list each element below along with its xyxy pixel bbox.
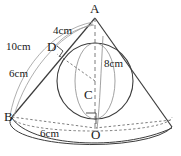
point-label-B: B	[4, 110, 13, 123]
dimension-label-AB: 10cm	[6, 41, 30, 52]
slant-edge-right	[95, 18, 172, 127]
point-label-O: O	[91, 128, 100, 141]
geometry-figure: A B C D O 4cm 10cm 6cm 8cm 6cm	[0, 0, 181, 156]
dimension-label-DB: 6cm	[9, 68, 28, 79]
dimension-label-AD: 4cm	[53, 25, 72, 36]
point-label-C: C	[84, 88, 93, 101]
right-angle-mark-at-D	[57, 46, 63, 57]
height-measure-line	[97, 36, 103, 129]
point-label-D: D	[47, 40, 56, 53]
point-label-A: A	[90, 2, 99, 15]
dimension-label-AO: 8cm	[104, 58, 123, 69]
sphere-radius-CD	[57, 54, 95, 81]
dimension-label-BO: 6cm	[40, 128, 59, 139]
